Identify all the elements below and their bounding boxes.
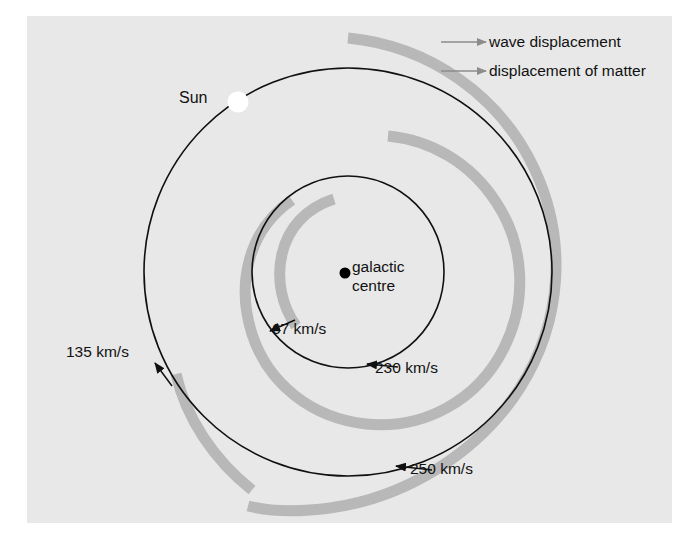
galactic-diagram-figure: galactic centre Sun 67 km/s 135 km/s bbox=[0, 0, 690, 541]
galactic-centre-label-line2: centre bbox=[352, 277, 395, 294]
velocity-label-67: 67 km/s bbox=[272, 320, 327, 337]
legend-label-wave-displacement: wave displacement bbox=[488, 33, 622, 50]
sun-dot bbox=[228, 92, 249, 113]
figure-panel bbox=[27, 16, 672, 523]
sun-label: Sun bbox=[179, 89, 207, 106]
velocity-callout-230: 230 km/s bbox=[367, 359, 438, 376]
velocity-label-230: 230 km/s bbox=[375, 359, 438, 376]
velocity-callout-67: 67 km/s bbox=[270, 320, 327, 337]
galactic-centre-dot bbox=[340, 268, 351, 279]
diagram-canvas: galactic centre Sun 67 km/s 135 km/s bbox=[0, 0, 690, 541]
velocity-label-250: 250 km/s bbox=[410, 460, 473, 477]
velocity-label-135: 135 km/s bbox=[66, 343, 129, 360]
legend-label-displacement-of-matter: displacement of matter bbox=[489, 62, 646, 79]
galactic-centre-label-line1: galactic bbox=[352, 258, 405, 275]
